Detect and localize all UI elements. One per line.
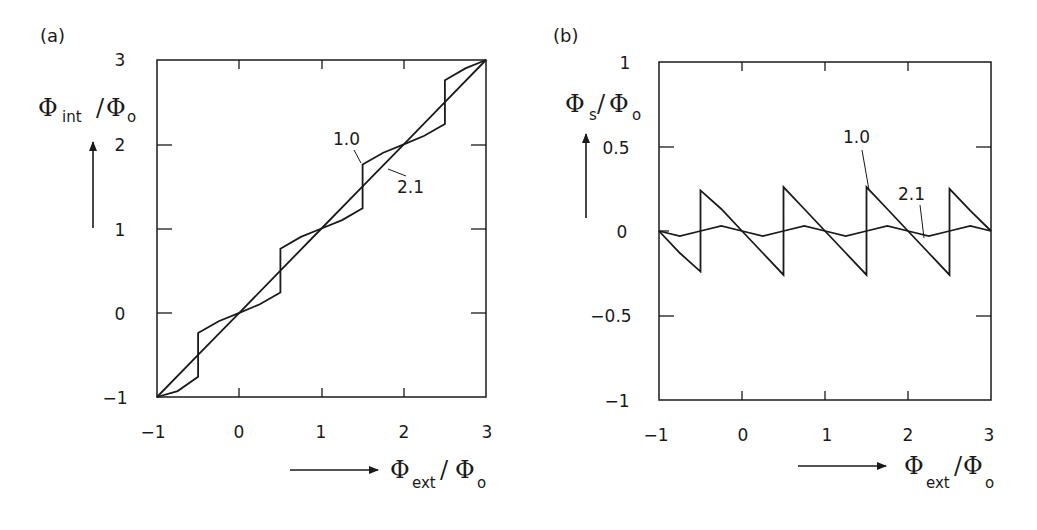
panel-a-leader-1.0 [354, 150, 361, 163]
figure: (a) Φ int / Φ o 3 2 1 0 −1 −1 0 1 2 [0, 0, 1037, 530]
svg-text:o: o [127, 108, 136, 126]
svg-text:1: 1 [822, 425, 833, 445]
svg-text:0: 0 [115, 304, 126, 324]
svg-text:−0.5: −0.5 [590, 306, 631, 326]
svg-text:−1: −1 [604, 391, 629, 411]
panel-a: (a) Φ int / Φ o 3 2 1 0 −1 −1 0 1 2 [38, 25, 492, 492]
svg-text:−1: −1 [140, 422, 165, 442]
svg-text:2: 2 [115, 135, 126, 155]
svg-text:3: 3 [115, 50, 126, 70]
svg-text:/: / [96, 94, 105, 122]
panel-b-leader-1.0 [862, 150, 869, 190]
panel-a-xlabel: Φ ext / Φ o [390, 456, 486, 492]
svg-text:/: / [440, 456, 449, 484]
panel-b-curve-2.1 [659, 226, 991, 236]
svg-text:−1: −1 [102, 388, 127, 408]
svg-text:0: 0 [617, 222, 628, 242]
panel-a-label: (a) [40, 25, 65, 46]
svg-text:o: o [477, 474, 486, 492]
svg-text:Φ: Φ [609, 90, 629, 118]
svg-text:s: s [589, 106, 597, 124]
svg-text:ext: ext [412, 474, 436, 492]
svg-text:0.5: 0.5 [602, 138, 629, 158]
svg-text:Φ: Φ [38, 94, 58, 122]
panel-b-ylabel: Φ s / Φ o [565, 90, 641, 124]
panel-a-xticks: −1 0 1 2 3 [140, 422, 492, 442]
svg-text:1: 1 [620, 53, 631, 73]
svg-text:int: int [62, 108, 82, 126]
svg-text:0: 0 [738, 425, 749, 445]
svg-text:Φ: Φ [455, 456, 475, 484]
svg-text:ext: ext [926, 474, 950, 492]
svg-text:3: 3 [482, 422, 493, 442]
panel-b-curve-label-2.1: 2.1 [898, 184, 925, 204]
panel-b-label: (b) [553, 25, 578, 46]
svg-text:1: 1 [316, 422, 327, 442]
svg-text:3: 3 [984, 425, 995, 445]
svg-text:Φ: Φ [963, 452, 983, 480]
svg-text:−1: −1 [643, 425, 668, 445]
svg-text:o: o [985, 474, 994, 492]
panel-b: (b) Φ s / Φ o 1 0.5 0 −0.5 −1 −1 0 1 2 [553, 25, 994, 492]
svg-text:/: / [954, 452, 963, 480]
svg-text:1: 1 [115, 220, 126, 240]
panel-a-curve-2.1 [157, 60, 486, 397]
svg-text:2: 2 [903, 425, 914, 445]
svg-text:Φ: Φ [106, 94, 126, 122]
panel-a-leader-2.1 [388, 169, 406, 176]
svg-text:o: o [632, 106, 641, 124]
svg-text:Φ: Φ [565, 90, 585, 118]
svg-text:/: / [597, 90, 606, 118]
panel-b-xticks: −1 0 1 2 3 [643, 425, 994, 445]
svg-text:2: 2 [399, 422, 410, 442]
svg-text:0: 0 [234, 422, 245, 442]
panel-a-ylabel: Φ int / Φ o [38, 94, 136, 126]
panel-b-curve-label-1.0: 1.0 [843, 127, 870, 147]
panel-b-leader-2.1 [920, 205, 924, 238]
panel-a-curve-label-1.0: 1.0 [333, 129, 360, 149]
svg-text:Φ: Φ [904, 452, 924, 480]
svg-text:Φ: Φ [390, 456, 410, 484]
panel-b-xlabel: Φ ext / Φ o [904, 452, 994, 492]
panel-a-curve-label-2.1: 2.1 [397, 177, 424, 197]
